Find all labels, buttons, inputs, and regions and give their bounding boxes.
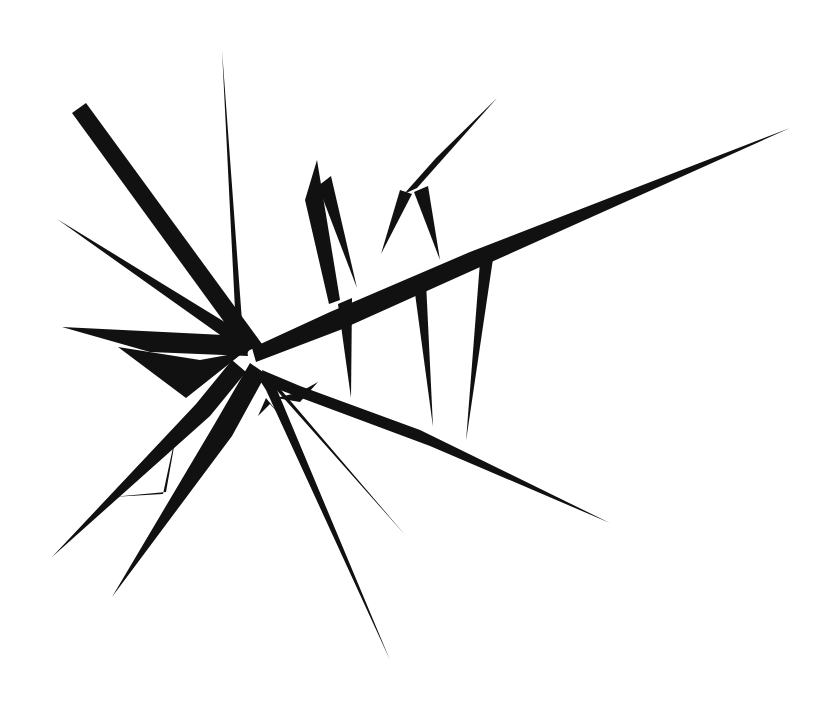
shatter-illustration: Shattered Glass Starburst Abstract black…: [0, 0, 830, 715]
artwork-canvas: Shattered Glass Starburst Abstract black…: [0, 0, 830, 715]
artwork-background: [0, 0, 830, 715]
